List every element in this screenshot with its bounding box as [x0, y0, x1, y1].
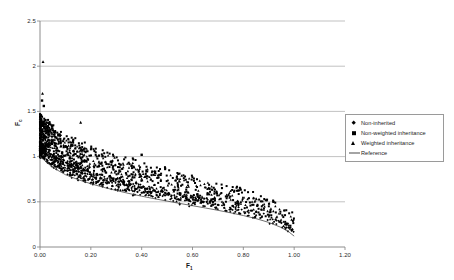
legend-line-icon-glyph	[349, 153, 360, 154]
point-square	[178, 173, 180, 175]
point-triangle	[210, 193, 212, 195]
point-triangle	[41, 92, 44, 95]
x-tick-label-5: 1.00	[279, 252, 309, 258]
point-square	[185, 179, 187, 181]
point-triangle	[140, 177, 142, 179]
point-square	[193, 180, 195, 182]
point-square	[247, 191, 249, 193]
point-square	[183, 177, 185, 179]
point-triangle	[71, 157, 73, 159]
legend-diamond-icon	[348, 119, 361, 128]
point-diamond	[240, 208, 242, 210]
point-triangle	[170, 183, 172, 185]
point-triangle	[274, 205, 276, 207]
point-triangle	[207, 182, 209, 184]
point-square	[244, 189, 246, 191]
point-square	[194, 182, 196, 184]
point-square	[166, 175, 168, 177]
point-triangle	[93, 162, 95, 164]
x-tick-label-3: 0.60	[178, 252, 208, 258]
point-square	[48, 123, 50, 125]
y-tick-label-2: 1	[14, 153, 36, 159]
point-triangle	[79, 121, 82, 124]
point-square	[225, 201, 227, 203]
y-tick-label-4: 2	[14, 63, 36, 69]
x-tick-label-4: 0.80	[228, 252, 258, 258]
point-square	[291, 229, 293, 231]
point-diamond	[231, 209, 233, 211]
point-square	[168, 183, 170, 185]
point-square	[156, 194, 158, 196]
point-triangle	[188, 198, 190, 200]
point-triangle	[122, 162, 124, 164]
point-triangle	[263, 203, 265, 205]
point-square	[78, 142, 80, 144]
x-tick-label-2: 0.40	[127, 252, 157, 258]
point-square	[135, 159, 137, 161]
point-triangle	[134, 173, 136, 175]
point-square	[244, 207, 246, 209]
point-square	[265, 215, 267, 217]
legend-label: Weighted inheritance	[361, 140, 414, 146]
point-square	[231, 189, 233, 191]
point-square	[132, 157, 134, 159]
point-square	[108, 163, 110, 165]
legend-square-icon-glyph	[352, 131, 356, 135]
point-square	[106, 152, 108, 154]
point-square	[40, 114, 42, 116]
point-square	[72, 164, 74, 166]
point-diamond	[136, 191, 138, 193]
point-square	[47, 119, 49, 121]
point-square	[97, 174, 99, 176]
point-square	[140, 154, 142, 156]
point-square	[127, 188, 129, 190]
point-square	[284, 214, 286, 216]
point-square	[81, 143, 83, 145]
point-square	[131, 164, 133, 166]
point-diamond	[164, 189, 166, 191]
point-square	[252, 191, 254, 193]
point-triangle	[263, 205, 265, 207]
point-square	[172, 177, 174, 179]
point-square	[89, 171, 91, 173]
point-square	[184, 175, 186, 177]
point-triangle	[255, 197, 257, 199]
point-square	[191, 179, 193, 181]
point-triangle	[175, 200, 177, 202]
legend-label: Non-inherited	[361, 120, 395, 126]
point-triangle	[190, 194, 192, 196]
point-square	[226, 197, 228, 199]
point-triangle	[252, 208, 254, 210]
point-square	[60, 160, 62, 162]
y-axis-title-sub: c	[18, 119, 23, 122]
point-triangle	[76, 145, 78, 147]
point-square	[233, 190, 235, 192]
point-triangle	[89, 162, 91, 164]
y-tick-label-3: 1.5	[14, 108, 36, 114]
point-square	[84, 167, 86, 169]
point-square	[258, 208, 260, 210]
point-square	[272, 201, 274, 203]
point-diamond	[221, 204, 223, 206]
point-square	[62, 140, 64, 142]
point-square	[232, 199, 234, 201]
point-square	[221, 187, 223, 189]
point-square	[117, 173, 119, 175]
point-square	[67, 164, 69, 166]
point-square	[84, 142, 86, 144]
point-square	[223, 204, 225, 206]
point-square	[208, 184, 210, 186]
point-diamond	[138, 189, 140, 191]
outlier-points	[41, 60, 143, 156]
point-square	[73, 153, 75, 155]
point-square	[93, 170, 95, 172]
point-square	[232, 186, 234, 188]
point-square	[261, 200, 263, 202]
point-square	[119, 166, 121, 168]
point-square	[268, 205, 270, 207]
point-square	[159, 168, 161, 170]
point-square	[110, 164, 112, 166]
point-triangle	[120, 173, 122, 175]
point-triangle	[195, 184, 197, 186]
point-diamond	[133, 185, 135, 187]
